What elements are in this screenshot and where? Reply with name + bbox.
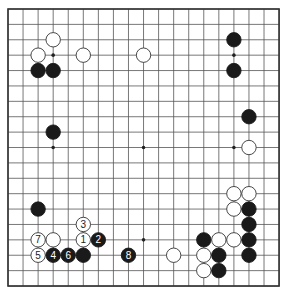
move-number: 2 [96,234,102,245]
white-stone [166,248,180,262]
black-stone [46,125,60,139]
black-stone-icon [76,248,90,262]
move-number: 7 [35,234,41,245]
white-stone [242,140,256,154]
black-stone-icon [242,248,256,262]
black-stone [242,110,256,124]
white-stone: 3 [76,217,90,231]
white-stone [197,248,211,262]
white-stone-icon [242,140,256,154]
star-point-icon [232,53,236,57]
black-stone [242,202,256,216]
black-stone-icon [242,217,256,231]
white-stone [31,48,45,62]
star-point-icon [51,146,55,150]
black-stone-icon [212,248,226,262]
white-stone-icon [227,186,241,200]
go-board: 37125468 [0,0,289,291]
white-stone: 7 [31,233,45,247]
black-stone-icon [227,63,241,77]
move-number: 1 [81,234,87,245]
white-stone [197,263,211,277]
move-number: 5 [35,250,41,261]
black-stone [31,202,45,216]
move-number: 3 [81,219,87,230]
black-stone [227,63,241,77]
white-stone-icon [31,48,45,62]
star-point-icon [51,53,55,57]
star-point-icon [142,146,146,150]
white-stone-icon [242,186,256,200]
white-stone-icon [166,248,180,262]
black-stone-icon [46,125,60,139]
white-stone-icon [227,233,241,247]
black-stone-icon [227,33,241,47]
white-stone [212,233,226,247]
white-stone-icon [76,48,90,62]
white-stone-icon [46,33,60,47]
black-stone [227,33,241,47]
white-stone-icon [46,233,60,247]
black-stone [76,248,90,262]
star-point-icon [142,238,146,242]
white-stone [46,33,60,47]
black-stone [46,63,60,77]
black-stone-icon [212,263,226,277]
move-number: 6 [65,250,71,261]
black-stone-icon [242,202,256,216]
star-point-icon [232,146,236,150]
black-stone [212,263,226,277]
white-stone [136,48,150,62]
black-stone-icon [197,233,211,247]
black-stone: 6 [61,248,75,262]
black-stone [242,217,256,231]
white-stone [242,186,256,200]
white-stone [227,186,241,200]
white-stone-icon [197,248,211,262]
white-stone-icon [212,233,226,247]
black-stone [31,63,45,77]
black-stone [212,248,226,262]
black-stone-icon [242,233,256,247]
black-stone: 2 [91,233,105,247]
black-stone: 8 [121,248,135,262]
white-stone: 5 [31,248,45,262]
white-stone-icon [197,263,211,277]
white-stone [46,233,60,247]
white-stone [227,233,241,247]
move-number: 8 [126,250,132,261]
white-stone-icon [227,202,241,216]
black-stone-icon [242,110,256,124]
black-stone-icon [46,63,60,77]
white-stone [227,202,241,216]
white-stone-icon [136,48,150,62]
move-number: 4 [50,250,56,261]
black-stone-icon [31,63,45,77]
black-stone [242,248,256,262]
black-stone: 4 [46,248,60,262]
black-stone [242,233,256,247]
white-stone [76,48,90,62]
go-board-diagram: 37125468 [0,0,289,291]
black-stone-icon [31,202,45,216]
black-stone [197,233,211,247]
white-stone: 1 [76,233,90,247]
